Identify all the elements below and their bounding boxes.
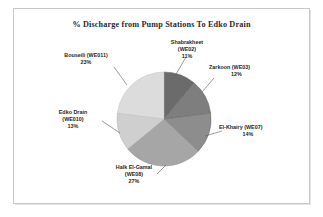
pie-label-edko-drain-name: Edko Drain — [42, 109, 104, 116]
pie-label-edko-drain-percent: 13% — [42, 123, 104, 130]
pie-label-edko-drain: Edko Drain (WE010) 13% — [42, 109, 104, 131]
pie-label-zarkoon: Zarkoon (WE03) 12% — [209, 64, 289, 78]
leader-line-bouseili — [114, 67, 127, 85]
pie-label-el-khairy-name: El-Khairy (WE07) — [219, 124, 299, 131]
pie-label-el-khairy: El-Khairy (WE07) 14% — [219, 124, 299, 138]
pie-label-shabrakheet: Shabrakheet (WE02) 11% — [152, 39, 222, 61]
pie-slice-bouseili[interactable] — [117, 72, 164, 119]
pie-label-bouseili: Bouseili (WE011) 23% — [47, 52, 125, 66]
pie-label-halk-el-gamal: Halk El-Gamal (WE08) 27% — [99, 164, 169, 186]
pie-label-zarkoon-percent: 12% — [209, 71, 264, 78]
leader-line-zarkoon — [202, 78, 214, 92]
pie-label-halk-el-gamal-code: (WE08) — [99, 171, 169, 178]
screenshot-root: % Discharge from Pump Stations To Edko D… — [0, 0, 323, 217]
pie-label-bouseili-name: Bouseili (WE011) — [47, 52, 125, 59]
pie-label-shabrakheet-code: (WE02) — [152, 46, 222, 53]
pie-label-halk-el-gamal-name: Halk El-Gamal — [99, 164, 169, 171]
chart-frame: % Discharge from Pump Stations To Edko D… — [13, 8, 310, 204]
pie-label-zarkoon-name: Zarkoon (WE03) — [209, 64, 289, 71]
pie-chart-area: Shabrakheet (WE02) 11% Zarkoon (WE03) 12… — [14, 9, 311, 205]
pie-label-shabrakheet-percent: 11% — [152, 53, 222, 60]
pie-label-el-khairy-percent: 14% — [219, 131, 277, 138]
pie-label-shabrakheet-name: Shabrakheet — [152, 39, 222, 46]
pie-label-edko-drain-code: (WE010) — [42, 116, 104, 123]
pie-label-halk-el-gamal-percent: 27% — [99, 178, 169, 185]
pie-slices — [117, 72, 211, 166]
pie-label-bouseili-percent: 23% — [47, 59, 125, 66]
